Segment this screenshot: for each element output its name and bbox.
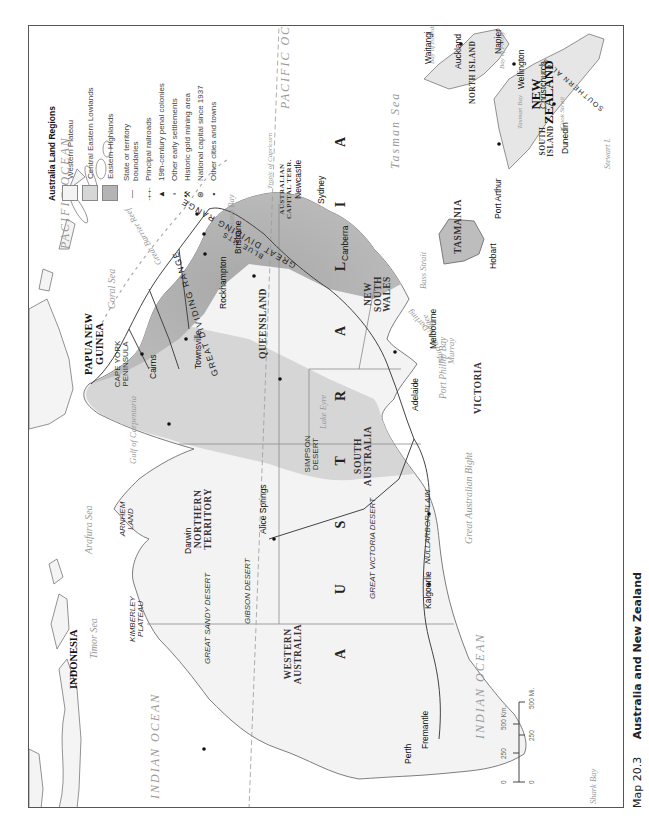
city-auckland: Auckland xyxy=(454,34,463,69)
city-kalgoorlie: Kalgoorlie xyxy=(424,571,433,609)
legend-label: Eastern Highlands xyxy=(106,114,115,179)
legend-item-state-boundaries: — State or territory boundaries xyxy=(122,31,140,201)
railroad-icon: -+-+- xyxy=(146,187,152,201)
papua-new-guinea xyxy=(29,169,85,429)
city-christchurch: Christchurch xyxy=(539,61,548,109)
city-perth: Perth xyxy=(404,744,413,764)
swatch-eastern-highlands-icon xyxy=(102,185,118,201)
city-hobart: Hobart xyxy=(489,243,498,269)
scale-km-0: 0 xyxy=(501,780,508,784)
label-western-australia: WESTERN AUSTRALIA xyxy=(284,619,303,689)
city-waitangi: Waitangi xyxy=(424,31,433,64)
label-south-island: SOUTH ISLAND xyxy=(539,123,554,159)
city-canberra: Canberra xyxy=(341,226,350,261)
label-nullarbor-plain: NULLARBOR PLAIN xyxy=(424,490,432,564)
gold-mining-crossed-picks-icon: ⚒ xyxy=(183,187,192,201)
early-settlement-square-icon: ▫ xyxy=(170,187,179,201)
legend-item-penal-colonies: ▲ 19th-century penal colonies xyxy=(157,31,166,201)
legend-item-eastern-highlands: Eastern Highlands xyxy=(102,31,118,201)
label-north-island: NORTH ISLAND xyxy=(469,41,477,104)
legend-label: Principal railroads xyxy=(144,117,153,181)
swatch-western-plateau-icon xyxy=(62,185,78,201)
map-canvas: PACIFIC OCEAN PACIFIC OCEAN INDIAN OCEAN… xyxy=(29,26,624,808)
legend-item-early-settlements: ▫ Other early settlements xyxy=(170,31,179,201)
city-napier: Napier xyxy=(494,29,503,54)
label-stewart-island: Stewart I. xyxy=(604,138,612,169)
label-great-sandy-desert: GREAT SANDY DESERT xyxy=(204,573,212,664)
label-kimberley-plateau: KIMBERLEY PLATEAU xyxy=(129,594,145,644)
city-wellington: Wellington xyxy=(517,49,526,89)
label-northern-territory: NORTHERN TERRITORY xyxy=(194,484,213,554)
scale-bar-line xyxy=(511,697,541,787)
label-simpson-desert: SIMPSON DESERT xyxy=(304,434,320,474)
legend-label: Other early settlements xyxy=(170,98,179,181)
legend: Australia Land Regions Western Plateau C… xyxy=(47,31,222,201)
label-south-australia: SOUTH AUSTRALIA xyxy=(354,421,373,491)
scale-km-250: 250 xyxy=(501,748,508,759)
label-timor-sea: Timor Sea xyxy=(89,618,99,659)
scale-mi-0: 0 xyxy=(529,780,536,784)
city-brisbane: Brisbane xyxy=(234,220,243,254)
city-dunedin: Dunedin xyxy=(561,122,570,154)
label-arnhem-land: ARNHEM LAND xyxy=(119,499,135,539)
boundary-line-icon: — xyxy=(127,187,136,201)
label-cape-york-peninsula: CAPE YORK PENINSULA xyxy=(114,339,130,389)
label-australia: A U S T R A L I A xyxy=(334,111,348,659)
national-capital-icon: ⊛ xyxy=(196,187,205,201)
city-adelaide: Adelaide xyxy=(411,378,420,411)
legend-label: State or territory boundaries xyxy=(122,101,140,181)
label-murray: Murray xyxy=(447,338,456,364)
label-papua-new-guinea: PAPUA NEW GUINEA xyxy=(84,309,105,379)
scale-mi-250: 250 xyxy=(529,730,536,741)
map-title: Australia and New Zealand xyxy=(631,572,644,739)
label-new-south-wales: NEW SOUTH WALES xyxy=(364,264,393,324)
legend-label: National capital since 1937 xyxy=(196,85,205,181)
map-caption: Map 20.3 Australia and New Zealand xyxy=(631,572,644,808)
city-darwin: Darwin xyxy=(184,528,193,554)
label-tropic-of-capricorn: Tropic of Capricorn xyxy=(267,133,274,189)
scale-bar: 0 250 500 Km. 0 250 500 Mi. xyxy=(497,697,557,787)
map-number: Map 20.3 xyxy=(631,757,644,808)
city-newcastle: Newcastle xyxy=(294,160,303,199)
city-cairns: Cairns xyxy=(149,354,158,379)
map-frame: PACIFIC OCEAN PACIFIC OCEAN INDIAN OCEAN… xyxy=(28,25,624,808)
swatch-central-eastern-lowlands-icon xyxy=(82,185,98,201)
label-tasman-sea: Tasman Sea xyxy=(389,92,401,169)
city-alice-springs: Alice Springs xyxy=(259,484,268,534)
scale-mi-500: 500 Mi. xyxy=(529,688,536,709)
legend-label: Western Plateau xyxy=(66,120,75,179)
city-dot-icon: • xyxy=(209,187,218,201)
scale-km-500: 500 Km. xyxy=(501,706,508,730)
legend-item-central-eastern-lowlands: Central Eastern Lowlands xyxy=(82,31,98,201)
label-tasmania: TASMANIA xyxy=(454,199,464,254)
label-victoria: VICTORIA xyxy=(474,362,484,414)
penal-colony-triangle-icon: ▲ xyxy=(157,187,166,201)
label-gulf-of-carpentaria: Gulf of Carpentaria xyxy=(129,396,138,464)
label-arafura-sea: Arafura Sea xyxy=(84,505,94,554)
label-coral-sea: Coral Sea xyxy=(107,269,117,309)
legend-item-national-capital: ⊛ National capital since 1937 xyxy=(196,31,205,201)
label-tasman-bay: Tasman Bay xyxy=(517,95,524,129)
label-bass-strait: Bass Strait xyxy=(419,252,428,289)
legend-label: 19th-century penal colonies xyxy=(157,83,166,181)
legend-item-gold-mining: ⚒ Historic gold mining area xyxy=(183,31,192,201)
label-gibson-desert: GIBSON DESERT xyxy=(244,558,252,624)
label-lake-eyre: Lake Eyre xyxy=(319,395,328,429)
legend-item-cities: • Other cities and towns xyxy=(209,31,218,201)
legend-item-western-plateau: Western Plateau xyxy=(62,31,78,201)
city-sydney: Sydney xyxy=(317,176,326,204)
label-indian-ocean-1: INDIAN OCEAN xyxy=(149,693,161,799)
city-townsville: Townsville xyxy=(194,330,203,369)
australia-mainland xyxy=(84,193,526,779)
label-great-australian-bight: Great Australian Bight xyxy=(464,452,474,544)
legend-title: Australia Land Regions xyxy=(47,31,57,201)
legend-label: Central Eastern Lowlands xyxy=(86,87,95,179)
label-act: AUSTRALIAN CAPITAL TERR. xyxy=(279,149,293,229)
label-pacific-ocean-2: PACIFIC OCEAN xyxy=(279,25,291,109)
label-indonesia: INDONESIA xyxy=(69,629,80,689)
legend-label: Other cities and towns xyxy=(209,102,218,181)
city-port-arthur: Port Arthur xyxy=(494,178,503,219)
new-zealand xyxy=(424,29,604,169)
legend-item-railroads: -+-+- Principal railroads xyxy=(144,31,153,201)
legend-label: Historic gold mining area xyxy=(183,93,192,181)
